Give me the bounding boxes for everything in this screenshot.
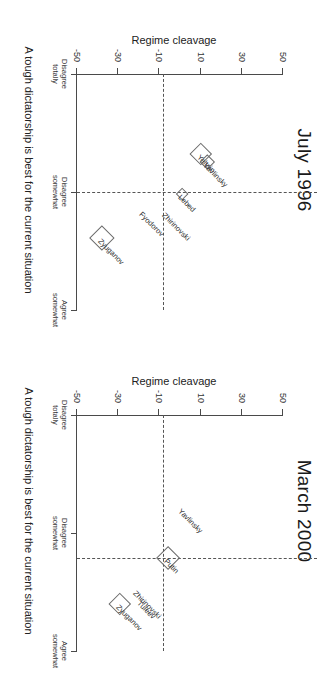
x-tick-left bbox=[71, 74, 77, 75]
y-tick-label-right: 50 bbox=[278, 375, 288, 403]
x-tick-left bbox=[71, 310, 77, 311]
y-tick-label-left: 50 bbox=[278, 34, 288, 62]
panel-march-2000: March 2000 Regime cleavage A tough dicta… bbox=[0, 341, 331, 681]
y-tick-label-right: 30 bbox=[237, 375, 247, 403]
reference-line-horizontal-right bbox=[163, 415, 164, 651]
y-tick-label-left: -50 bbox=[72, 34, 82, 62]
plot-area-right bbox=[77, 415, 283, 651]
x-axis-title-right: A tough dictatorship is best for the cur… bbox=[23, 355, 35, 667]
y-tick-label-right: -10 bbox=[154, 375, 164, 403]
x-tick-right bbox=[71, 415, 77, 416]
panel-july-1996: July 1996 Regime cleavage A tough dictat… bbox=[0, 0, 331, 340]
x-tick-right bbox=[71, 651, 77, 652]
y-tick-label-left: -10 bbox=[154, 34, 164, 62]
x-tick-label-left: Disagreetotally bbox=[51, 46, 68, 102]
y-tick-right bbox=[200, 409, 201, 415]
y-tick-label-right: -50 bbox=[72, 375, 82, 403]
x-tick-label-right: Disagreesomewhat bbox=[51, 505, 68, 561]
y-tick-left bbox=[117, 68, 118, 74]
x-tick-label-right: Disagreetotally bbox=[51, 387, 68, 443]
x-tick-label-left: Agreesomewhat bbox=[51, 282, 68, 338]
x-tick-label-left: Disagreesomewhat bbox=[51, 164, 68, 220]
y-tick-label-left: 10 bbox=[196, 34, 206, 62]
x-tick-label-right: Agreesomewhat bbox=[51, 623, 68, 679]
y-tick-right bbox=[117, 409, 118, 415]
y-tick-right bbox=[282, 409, 283, 415]
y-tick-label-left: 30 bbox=[237, 34, 247, 62]
x-axis-title-left: A tough dictatorship is best for the cur… bbox=[23, 14, 35, 326]
y-tick-label-right: 10 bbox=[196, 375, 206, 403]
reference-line-vertical-right bbox=[77, 558, 317, 559]
y-tick-left bbox=[200, 68, 201, 74]
y-tick-left bbox=[241, 68, 242, 74]
y-tick-right bbox=[158, 409, 159, 415]
figure-canvas: July 1996 Regime cleavage A tough dictat… bbox=[0, 0, 331, 681]
y-tick-left bbox=[158, 68, 159, 74]
y-tick-right bbox=[241, 409, 242, 415]
rotated-figure-wrapper: July 1996 Regime cleavage A tough dictat… bbox=[0, 0, 331, 681]
reference-line-vertical-left bbox=[77, 192, 317, 193]
panel-title-left: July 1996 bbox=[293, 0, 315, 340]
y-tick-label-left: -30 bbox=[113, 34, 123, 62]
panel-title-right: March 2000 bbox=[293, 341, 315, 681]
y-tick-label-right: -30 bbox=[113, 375, 123, 403]
y-tick-left bbox=[282, 68, 283, 74]
x-tick-right bbox=[71, 533, 77, 534]
